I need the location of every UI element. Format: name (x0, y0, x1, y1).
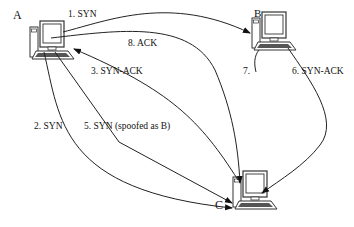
node-label-b: B (254, 8, 261, 19)
line-7 (255, 50, 259, 72)
msg-label-2: 2. SYN (34, 122, 63, 132)
msg-label-3: 3. SYN-ACK (91, 67, 143, 77)
node-label-a: A (13, 9, 22, 21)
node-label-c: C (215, 199, 223, 211)
computer-A-icon (30, 21, 74, 59)
msg-label-8: 8. ACK (128, 39, 157, 49)
msg-label-7: 7. (243, 67, 250, 77)
diagram-canvas: A B C 1. SYN 2. SYN 3. SYN-ACK 5. SYN (s… (0, 0, 354, 227)
msg-label-1: 1. SYN (68, 10, 97, 20)
diagram-graphics (0, 0, 354, 227)
msg-label-6: 6. SYN-ACK (292, 67, 344, 77)
msg-label-5: 5. SYN (spoofed as B) (84, 122, 170, 132)
arrow-8-ack (51, 31, 240, 183)
